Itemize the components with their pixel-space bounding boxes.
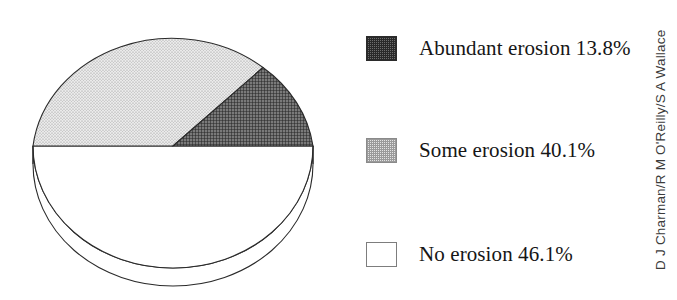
legend-item-abundant-erosion[interactable]: Abundant erosion 13.8% [366,36,631,61]
legend: Abundant erosion 13.8% Some erosion 40.1… [366,28,616,278]
pie-chart-graphic [0,0,360,300]
legend-item-label: Some erosion 40.1% [419,140,595,161]
credit-text: D J Charman/R M O'Reilly/S A Wallace [654,30,668,270]
white-swatch-icon [366,242,397,267]
pie-chart-figure: Abundant erosion 13.8% Some erosion 40.1… [0,0,677,300]
credit-line: D J Charman/R M O'Reilly/S A Wallace [647,0,675,300]
legend-item-label: No erosion 46.1% [419,244,573,265]
legend-item-no-erosion[interactable]: No erosion 46.1% [366,242,573,267]
stipple-swatch-icon [366,138,397,163]
legend-item-some-erosion[interactable]: Some erosion 40.1% [366,138,595,163]
legend-item-label: Abundant erosion 13.8% [419,38,631,59]
crosshatch-swatch-icon [366,36,397,61]
